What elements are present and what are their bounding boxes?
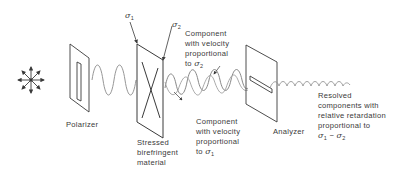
annotation-sigma1-line-3: proportional	[196, 137, 240, 147]
stressed-material-line-2: birefringent	[137, 148, 178, 158]
annotation-resolved-expression: σ1 − σ2	[318, 131, 386, 143]
annotation-sigma2-line-1: Component	[185, 29, 229, 39]
annotation-sigma1-subscript: 1	[211, 151, 214, 157]
stressed-material-plate	[137, 44, 163, 138]
resolved-wave	[270, 82, 350, 89]
polarizer-label: Polarizer	[66, 120, 98, 130]
sigma1-label: σ1	[125, 11, 134, 23]
annotation-sigma2-line-2: with velocity	[185, 39, 229, 49]
annotation-resolved-line-1: Resolved	[318, 91, 386, 101]
annotation-resolved-line-2: components with	[318, 101, 386, 111]
pointer-sigma1	[174, 92, 182, 100]
analyzer-label: Analyzer	[273, 127, 305, 137]
polariscope-diagram: σ1 σ2 Polarizer Stressed birefringent ma…	[0, 0, 416, 180]
annotation-sigma2-prefix: to	[185, 59, 194, 68]
sigma2-label: σ2	[172, 20, 181, 32]
annotation-sigma2-subscript: 2	[200, 63, 203, 69]
annotation-sigma1-line-4: to σ1	[196, 147, 240, 159]
stressed-material-line-3: material	[137, 158, 178, 168]
polarized-wave	[92, 65, 136, 95]
sigma1-arrow	[130, 22, 137, 43]
sigma2-arrow	[163, 26, 172, 60]
annotation-resolved-line-4: proportional to	[318, 121, 386, 131]
sigma1-subscript: 1	[131, 15, 134, 21]
annotation-component-sigma1: Component with velocity proportional to …	[196, 117, 240, 159]
resolved-sigma2-subscript: 2	[342, 135, 345, 141]
wave-component-sigma1	[165, 75, 248, 95]
annotation-sigma2-line-4: to σ2	[185, 59, 229, 71]
stressed-material-label: Stressed birefringent material	[137, 138, 178, 168]
annotation-sigma1-line-1: Component	[196, 117, 240, 127]
annotation-sigma1-line-2: with velocity	[196, 127, 240, 137]
annotation-sigma2-line-3: proportional	[185, 49, 229, 59]
unpolarized-light-icon	[18, 67, 44, 93]
stressed-material-line-1: Stressed	[137, 138, 178, 148]
annotation-resolved-line-3: relative retardation	[318, 111, 386, 121]
sigma2-subscript: 2	[178, 24, 181, 30]
annotation-sigma1-prefix: to	[196, 147, 205, 156]
annotation-resolved: Resolved components with relative retard…	[318, 91, 386, 143]
annotation-component-sigma2: Component with velocity proportional to …	[185, 29, 229, 71]
polarizer-plate	[70, 44, 89, 112]
